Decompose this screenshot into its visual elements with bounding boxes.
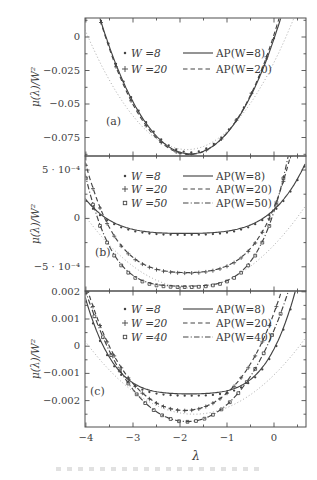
series-line-dashed [85,0,305,154]
panel-a-frame [85,18,306,156]
legend-line-label: AP(W=20) [216,317,272,329]
legend-line-label: AP(W=20) [216,183,272,195]
dot-marker [184,234,186,236]
dot-marker [120,374,122,376]
dot-marker [243,106,245,108]
legend-row: W =8AP(W=8) [118,303,265,316]
plus-markers [84,0,299,157]
y-tick-label: 0 [10,340,80,351]
dot-marker [127,228,129,230]
y-tick-label: 0.002 [10,286,80,297]
legend-marker-label: W =40 [131,331,183,343]
dashed-line-sample [183,319,213,327]
legend-marker-label: W =8 [131,47,183,59]
legend-marker-label: W =50 [131,197,183,209]
dot-marker [168,144,170,146]
plus-marker-icon [118,183,131,195]
square-marker-icon [118,331,131,343]
dot-marker [176,234,178,236]
dot-marker [275,208,277,210]
legend-marker-label: W =8 [131,170,183,182]
dot-marker [113,365,115,367]
solid-line-sample [183,305,213,313]
dot-marker [169,234,171,236]
dot-marker [155,233,157,235]
dot-marker [303,254,305,256]
dot-marker [198,234,200,236]
x-axis-label: λ [186,449,206,463]
dot-marker [212,233,214,235]
dot-marker [228,128,230,130]
dot-marker [169,394,171,396]
legend-line-label: AP(W=50) [216,197,272,209]
dot-marker [148,391,150,393]
y-axis-label-a: μ(λ)/W² [30,67,42,107]
dot-marker [296,179,298,181]
dot-marker [261,219,263,221]
dot-marker [155,392,157,394]
panel-a-ticks [85,18,306,156]
dot-marker [219,232,221,234]
dot-marker [282,329,284,331]
dot-marker [106,354,108,356]
legend-row: W =40AP(W=40) [118,331,272,344]
dot-marker-icon [118,303,131,315]
dot-marker [280,14,282,16]
series-line-solid [85,0,305,154]
dot-marker [198,394,200,396]
dot-marker [226,231,228,233]
dot-marker [99,340,101,342]
y-tick-label: 5 · 10⁻⁴ [10,164,80,175]
y-tick-label: 0 [10,31,80,42]
y-tick-label: 0.001 [10,313,80,324]
dot-marker [275,345,277,347]
dot-marker [258,76,260,78]
dashdot-line-sample [183,333,213,341]
dot-marker [198,150,200,152]
legend-marker-label: W =20 [131,63,183,75]
legend-row: W =50AP(W=50) [118,196,272,209]
dot-marker [176,394,178,396]
dashed-line-sample [183,185,213,193]
dot-marker-icon [118,47,131,59]
dot-marker-icon [118,170,131,182]
legend-row: W =8AP(W=8) [118,169,265,182]
series-line-dotted [85,339,305,415]
x-tick-label: −1 [214,432,240,443]
dot-marker [148,232,150,234]
plus-marker-icon [118,317,131,329]
dot-marker [212,394,214,396]
dot-marker [184,395,186,397]
dot-marker [191,234,193,236]
dot-marker [153,131,155,133]
panel-tag-a: (a) [106,116,121,128]
caption-remnant [56,467,262,471]
y-tick-label: −0.05 [10,98,80,109]
legend-line-label: AP(W=8) [216,303,265,315]
dot-marker [254,223,256,225]
dot-marker [219,393,221,395]
legend-marker-label: W =20 [131,183,183,195]
legend-line-label: AP(W=40) [216,331,272,343]
dot-marker [130,96,132,98]
dot-marker [92,208,94,210]
x-tick-label: −2 [167,432,193,443]
dot-marker [205,233,207,235]
legend-row: W =20AP(W=20) [118,62,272,75]
dot-marker [162,233,164,235]
dot-marker [268,214,270,216]
y-tick-label: −0.001 [10,367,80,378]
y-tick-label: −5 · 10⁻⁴ [10,261,80,272]
legend-line-label: AP(W=20) [216,63,272,75]
dot-marker [160,138,162,140]
x-tick-label: −4 [73,432,99,443]
dot-marker [240,386,242,388]
legend-marker-label: W =8 [131,303,183,315]
y-tick-label: −0.025 [10,65,80,76]
legend-line-label: AP(W=8) [216,47,265,59]
dot-marker [213,143,215,145]
square-marker-icon [118,197,131,209]
dot-marker [106,219,108,221]
panel-tag-b: (b) [95,247,111,259]
dot-marker [113,223,115,225]
